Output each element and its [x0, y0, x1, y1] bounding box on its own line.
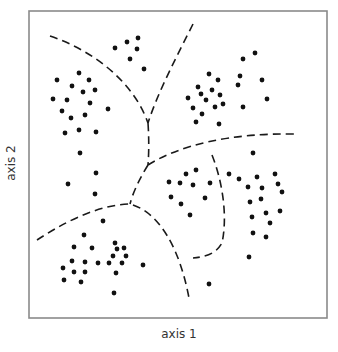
data-point — [264, 211, 269, 216]
data-point — [101, 219, 106, 224]
data-point — [106, 107, 111, 112]
data-point — [93, 192, 98, 197]
data-point — [194, 120, 199, 125]
data-point — [124, 254, 129, 259]
data-point — [236, 83, 241, 88]
data-point — [179, 202, 184, 207]
data-point — [251, 151, 256, 156]
data-point — [253, 51, 258, 56]
data-point — [260, 186, 265, 191]
data-point — [218, 93, 223, 98]
data-point — [135, 47, 140, 52]
data-point — [83, 270, 88, 275]
x-axis-label: axis 1 — [0, 327, 338, 341]
data-point — [200, 112, 205, 117]
data-point — [111, 254, 116, 259]
data-point — [65, 98, 70, 103]
data-point — [96, 261, 101, 266]
data-point — [186, 96, 191, 101]
data-point — [113, 241, 118, 246]
cluster-far-right — [207, 172, 285, 287]
data-point — [55, 78, 60, 83]
data-point — [69, 116, 74, 121]
data-point — [93, 88, 98, 93]
data-point — [221, 102, 226, 107]
data-point — [207, 282, 212, 287]
data-point — [94, 130, 99, 135]
data-point — [81, 90, 86, 95]
boundary-right-horizontal-arc — [148, 134, 295, 165]
cluster-bottom-left — [61, 219, 146, 296]
data-point — [142, 67, 147, 72]
data-point — [207, 72, 212, 77]
data-point — [238, 74, 243, 79]
data-point — [115, 247, 120, 252]
data-point — [280, 190, 285, 195]
data-point — [216, 78, 221, 83]
data-point — [227, 172, 232, 177]
data-point — [94, 171, 99, 176]
data-point — [77, 71, 82, 76]
cluster-left-upper — [51, 71, 111, 197]
data-point — [278, 209, 283, 214]
scatter-diagram — [0, 0, 338, 352]
data-point — [51, 97, 56, 102]
data-point — [87, 78, 92, 83]
data-point — [188, 213, 193, 218]
data-point — [141, 263, 146, 268]
data-point — [273, 172, 278, 177]
data-point — [83, 260, 88, 265]
data-point — [194, 168, 199, 173]
data-point — [70, 259, 75, 264]
data-point — [83, 113, 88, 118]
data-point — [122, 246, 127, 251]
data-point — [268, 221, 273, 226]
boundary-center-trunk — [148, 123, 149, 165]
data-point — [241, 57, 246, 62]
data-point — [259, 197, 264, 202]
data-point — [77, 128, 82, 133]
cluster-top-small — [113, 36, 147, 72]
boundary-center-lower-stem — [130, 165, 148, 204]
data-point — [70, 84, 75, 89]
data-point — [88, 101, 93, 106]
data-point — [61, 266, 66, 271]
y-axis-label: axis 2 — [4, 145, 18, 181]
data-point — [169, 195, 174, 200]
data-point — [203, 196, 208, 201]
data-point — [204, 98, 209, 103]
data-point — [191, 106, 196, 111]
data-point — [248, 200, 253, 205]
data-point — [276, 182, 281, 187]
data-point — [114, 271, 119, 276]
data-point — [251, 231, 256, 236]
data-point — [196, 85, 201, 90]
data-point — [63, 131, 68, 136]
data-point — [247, 255, 252, 260]
data-point — [72, 270, 77, 275]
data-point — [136, 36, 141, 41]
data-point — [60, 109, 65, 114]
decision-boundaries — [37, 24, 295, 298]
data-point — [210, 88, 215, 93]
data-point — [79, 280, 84, 285]
data-point — [112, 291, 117, 296]
data-point — [66, 182, 71, 187]
data-point — [237, 177, 242, 182]
data-point — [246, 185, 251, 190]
data-point — [78, 151, 83, 156]
data-point — [178, 181, 183, 186]
data-point — [120, 261, 125, 266]
data-point — [62, 278, 67, 283]
data-point — [213, 105, 218, 110]
data-point — [241, 105, 246, 110]
data-point — [72, 245, 77, 250]
cluster-center-right — [167, 168, 213, 218]
boundary-bottom-left-arc — [37, 204, 189, 298]
data-point — [260, 78, 265, 83]
data-point — [128, 57, 133, 62]
data-point — [255, 175, 260, 180]
boundary-upper-right-arc — [148, 24, 193, 123]
data-point — [82, 233, 87, 238]
data-point — [125, 40, 130, 45]
